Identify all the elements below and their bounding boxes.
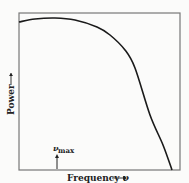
svg-text:Power: Power [6, 84, 16, 115]
plot-frame [19, 13, 180, 170]
y-arrow-icon [9, 73, 13, 76]
power-curve [19, 18, 172, 170]
svg-text:max: max [58, 146, 75, 155]
y-axis-label: Power [6, 73, 16, 115]
nu-max-annotation: ν max [53, 143, 75, 169]
chart-svg: Power Frequency ν ν max [0, 0, 189, 183]
chart: Power Frequency ν ν max [0, 0, 189, 183]
